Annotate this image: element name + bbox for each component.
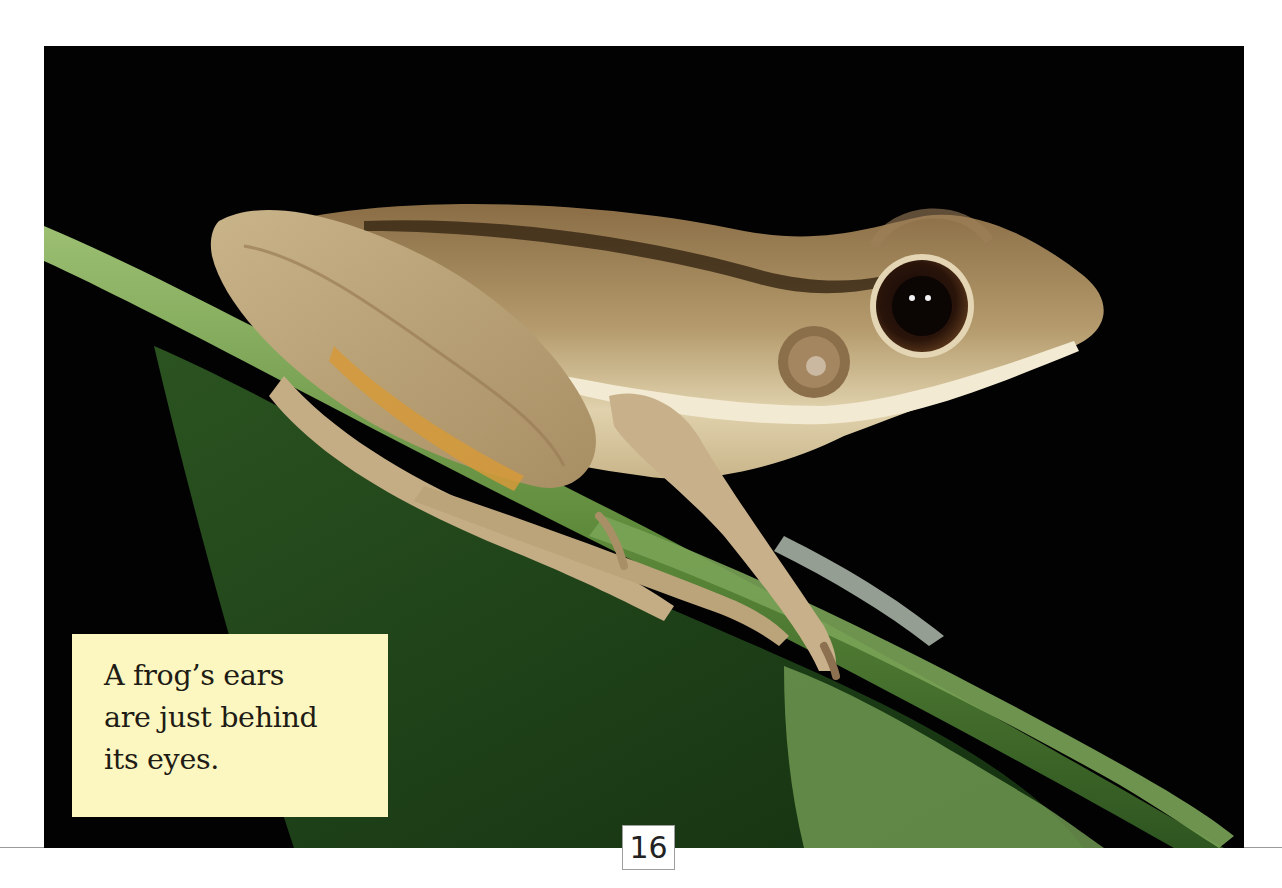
caption-line-3: its eyes. bbox=[104, 739, 388, 781]
caption-line-2: are just behind bbox=[104, 697, 388, 739]
caption-box: A frog’s ears are just behind its eyes. bbox=[72, 634, 388, 817]
page-number: 16 bbox=[622, 825, 675, 870]
caption-line-1: A frog’s ears bbox=[104, 655, 388, 697]
